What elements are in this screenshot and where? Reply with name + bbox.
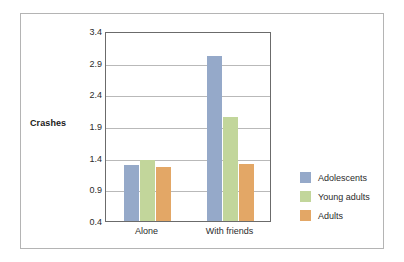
x-axis-tick-label: Alone	[135, 226, 158, 236]
y-axis-tick-label: 3.4	[72, 27, 102, 37]
legend-swatch-icon	[300, 210, 311, 221]
bar	[124, 165, 139, 221]
legend-item: Adolescents	[300, 168, 384, 187]
bar	[239, 164, 254, 221]
x-axis-tick-labels: AloneWith friends	[105, 226, 271, 242]
legend-item: Young adults	[300, 187, 384, 206]
x-axis-tick-label: With friends	[206, 226, 254, 236]
y-axis-tick-label: 0.9	[72, 185, 102, 195]
bar	[156, 167, 171, 221]
legend-item-label: Adults	[318, 211, 343, 221]
legend-item: Adults	[300, 206, 384, 225]
y-axis-tick-label: 0.4	[72, 217, 102, 227]
plot-area	[105, 32, 271, 222]
bar	[223, 117, 238, 222]
bar	[207, 56, 222, 221]
y-axis-tick-label: 1.9	[72, 122, 102, 132]
chart-legend: AdolescentsYoung adultsAdults	[300, 168, 384, 225]
bars-layer	[106, 33, 270, 221]
legend-swatch-icon	[300, 172, 311, 183]
y-axis-tick-label: 2.4	[72, 90, 102, 100]
y-axis-tick-label: 2.9	[72, 59, 102, 69]
legend-item-label: Young adults	[318, 192, 370, 202]
y-axis-tick-label: 1.4	[72, 154, 102, 164]
chart-figure: Crashes 0.40.91.41.92.42.93.4 AloneWith …	[0, 0, 404, 262]
legend-swatch-icon	[300, 191, 311, 202]
legend-item-label: Adolescents	[318, 173, 367, 183]
y-axis-tick-labels: 0.40.91.41.92.42.93.4	[72, 32, 102, 222]
bar	[140, 160, 155, 221]
